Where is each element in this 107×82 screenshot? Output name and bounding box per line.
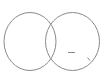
venn-diagram	[0, 0, 107, 82]
background	[0, 0, 107, 82]
